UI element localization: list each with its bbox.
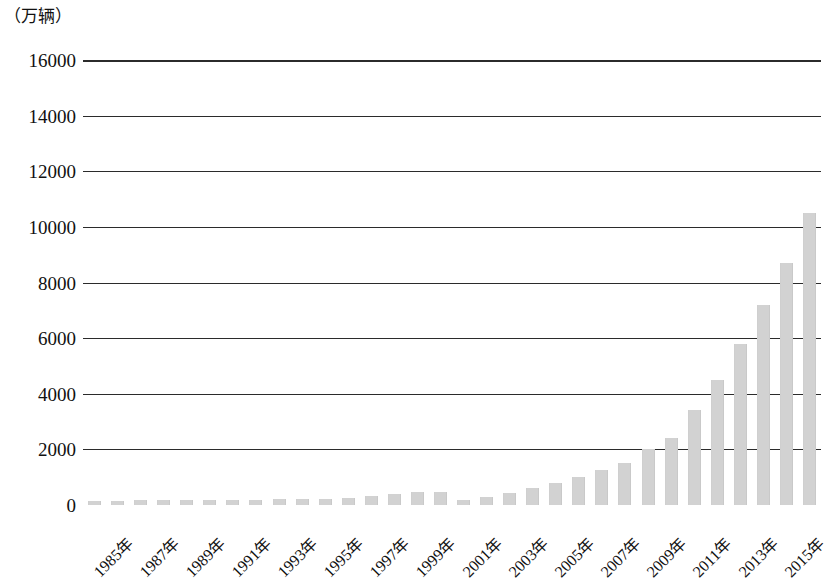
gridline — [83, 171, 821, 172]
bar — [526, 488, 539, 505]
bar — [572, 477, 585, 505]
x-axis-tick-label: 2005年 — [552, 535, 597, 580]
x-axis-tick-label: 2011年 — [690, 535, 735, 580]
bar — [595, 470, 608, 505]
x-axis-tick-label: 1985年 — [91, 535, 136, 580]
y-axis-unit-caption: （万辆） — [4, 6, 72, 28]
x-axis-tick-label: 1997年 — [367, 535, 412, 580]
bar — [411, 492, 424, 505]
x-axis-tick-label: 1995年 — [321, 535, 366, 580]
bar — [803, 213, 816, 505]
x-axis-tick-label: 2009年 — [644, 535, 689, 580]
y-axis-tick-label: 8000 — [2, 274, 76, 293]
gridline — [83, 283, 821, 284]
x-axis-tick-label: 1987年 — [137, 535, 182, 580]
x-axis-tick-label: 1989年 — [183, 535, 228, 580]
bar — [780, 263, 793, 505]
gridline — [83, 227, 821, 228]
bar — [365, 496, 378, 505]
bar — [503, 493, 516, 505]
x-axis-tick-label: 2013年 — [736, 535, 781, 580]
y-axis-tick-label: 2000 — [2, 440, 76, 459]
y-axis-tick-label: 0 — [2, 496, 76, 515]
bar — [549, 483, 562, 505]
bar — [734, 344, 747, 505]
bar — [642, 449, 655, 505]
bar — [434, 492, 447, 505]
y-axis-tick-label: 14000 — [2, 107, 76, 126]
x-axis-tick-label: 2015年 — [782, 535, 827, 580]
x-axis-tick-label: 1991年 — [229, 535, 274, 580]
x-axis-tick-labels: 1985年1987年1989年1991年1993年1995年1997年1999年… — [83, 505, 821, 581]
y-axis-tick-label: 4000 — [2, 385, 76, 404]
bar — [757, 305, 770, 505]
bar — [480, 497, 493, 505]
plot-area — [83, 60, 821, 505]
gridline — [83, 338, 821, 339]
bar — [711, 380, 724, 505]
y-axis-tick-label: 12000 — [2, 162, 76, 181]
x-axis-tick-label: 2003年 — [506, 535, 551, 580]
y-axis-tick-labels: 1600014000120001000080006000400020000 — [0, 60, 76, 505]
x-axis-tick-label: 2001年 — [460, 535, 505, 580]
bar — [618, 463, 631, 505]
y-axis-tick-label: 10000 — [2, 218, 76, 237]
x-axis-line — [83, 60, 821, 62]
bar — [688, 410, 701, 505]
x-axis-tick-label: 1999年 — [413, 535, 458, 580]
bar — [342, 498, 355, 505]
bar — [665, 438, 678, 505]
y-axis-tick-label: 16000 — [2, 51, 76, 70]
x-axis-tick-label: 2007年 — [598, 535, 643, 580]
bar — [388, 494, 401, 505]
gridline — [83, 116, 821, 117]
y-axis-tick-label: 6000 — [2, 329, 76, 348]
x-axis-tick-label: 1993年 — [275, 535, 320, 580]
